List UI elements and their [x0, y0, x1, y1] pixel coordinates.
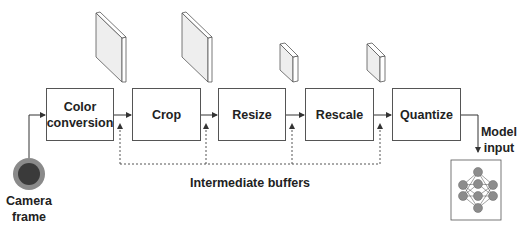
stage-label: Crop	[152, 107, 181, 123]
stage-quantize: Quantize	[392, 88, 461, 141]
camera-frame-line1: Camera	[0, 193, 58, 209]
buffer-slab-4	[367, 43, 385, 82]
stage-label: Color conversion	[47, 99, 114, 131]
model-input-label: Model input	[479, 124, 519, 156]
stage-label: Quantize	[400, 107, 453, 123]
camera-frame-line2: frame	[0, 209, 58, 225]
stage-rescale: Rescale	[305, 88, 374, 141]
buffer-slab-1	[96, 12, 126, 82]
arrow-quantize-to-model	[460, 115, 478, 152]
camera-lens-icon	[13, 158, 45, 190]
buffer-slab-3	[280, 43, 298, 82]
stage-color-conversion: Color conversion	[46, 88, 114, 141]
camera-frame-label: Camera frame	[0, 193, 58, 225]
neural-network-icon	[451, 160, 501, 220]
camera-to-color-arrow	[29, 115, 45, 158]
intermediate-buffers-label: Intermediate buffers	[180, 175, 320, 191]
buffer-slab-2	[182, 12, 212, 82]
stage-resize: Resize	[218, 88, 286, 141]
model-input-line2: input	[479, 140, 519, 156]
stage-label: Rescale	[316, 107, 363, 123]
stage-crop: Crop	[132, 88, 201, 141]
model-input-line1: Model	[479, 124, 519, 140]
stage-label: Resize	[232, 107, 272, 123]
